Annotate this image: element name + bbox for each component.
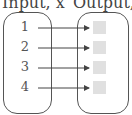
mapping-arrows [0, 0, 132, 115]
